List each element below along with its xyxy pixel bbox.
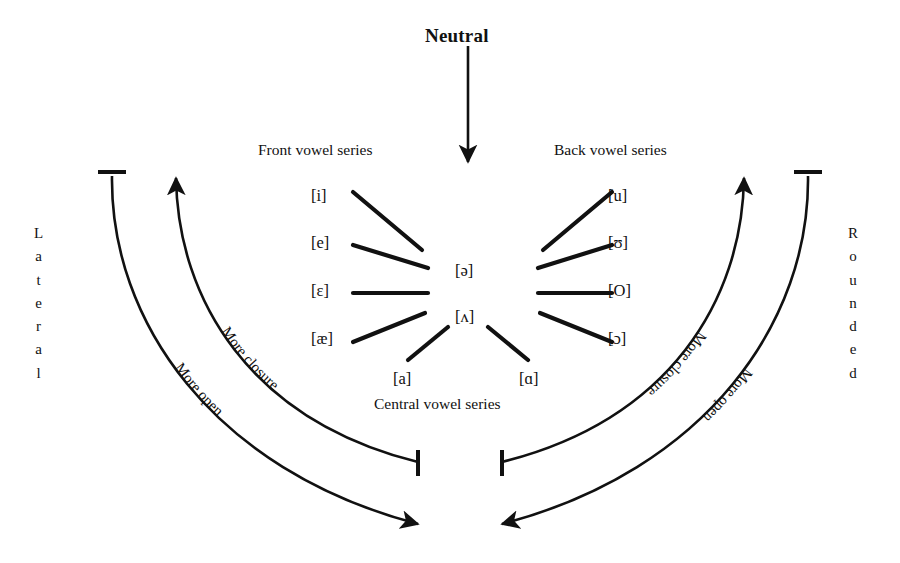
- side-label-letter: l: [37, 362, 41, 385]
- side-label-letter: u: [849, 269, 857, 292]
- side-label-letter: L: [34, 222, 43, 245]
- spoke-u: [543, 192, 612, 250]
- vowel-symbol-upsilon: [ʊ]: [608, 235, 628, 252]
- side-label-lateral: Lateral: [34, 222, 43, 385]
- vowel-symbol-epsilon: [ɛ]: [311, 283, 329, 300]
- side-label-letter: o: [849, 245, 857, 268]
- diagram-canvas: More closure More open More closure More…: [0, 0, 900, 563]
- arc-right-outer: More open: [502, 172, 822, 524]
- arc-label-right-outer: More open: [700, 366, 756, 427]
- spoke-upsilon: [538, 245, 612, 268]
- side-label-letter: n: [849, 292, 857, 315]
- spoke-script-a: [488, 327, 528, 360]
- spoke-a: [408, 327, 448, 360]
- vowel-symbol-script-a: [ɑ]: [519, 371, 539, 388]
- spoke-ae: [353, 313, 425, 342]
- arc-left-outer: More open: [98, 172, 418, 524]
- arc-right-inner: More closure: [502, 178, 744, 476]
- side-label-letter: a: [35, 338, 42, 361]
- vowel-symbol-open-o: [ɔ]: [608, 331, 626, 348]
- side-label-letter: e: [35, 292, 42, 315]
- side-label-letter: R: [848, 222, 858, 245]
- side-label-letter: a: [35, 245, 42, 268]
- vowel-symbol-e: [e]: [311, 235, 329, 252]
- vowel-symbol-u: [u]: [608, 188, 627, 205]
- arc-label-left-outer: More open: [172, 360, 227, 419]
- front-series-label: Front vowel series: [258, 142, 373, 158]
- arc-label-right-inner: More closure: [644, 329, 709, 400]
- spoke-open-o: [540, 313, 612, 342]
- side-label-letter: r: [36, 315, 41, 338]
- back-series-label: Back vowel series: [554, 142, 667, 158]
- vowel-diagram: More closure More open More closure More…: [0, 0, 900, 563]
- side-label-letter: d: [849, 315, 857, 338]
- vowel-symbol-caret: [ʌ]: [455, 309, 474, 326]
- side-label-letter: t: [37, 269, 41, 292]
- side-label-letter: e: [850, 338, 857, 361]
- vowel-symbol-a: [a]: [393, 371, 411, 388]
- central-series-label: Central vowel series: [374, 396, 501, 412]
- vowel-symbol-schwa: [ə]: [455, 263, 473, 280]
- side-label-rounded: Rounded: [848, 222, 858, 385]
- front-vowel-spokes: [353, 192, 448, 360]
- spoke-i: [353, 192, 422, 250]
- vowel-symbol-ae: [æ]: [311, 331, 333, 348]
- spoke-e: [353, 245, 428, 268]
- vowel-symbol-i: [i]: [311, 188, 327, 205]
- vowel-symbol-O: [O]: [608, 283, 631, 300]
- arc-left-inner: More closure: [176, 178, 418, 476]
- back-vowel-spokes: [488, 192, 612, 360]
- arc-label-left-inner: More closure: [219, 324, 283, 393]
- page-title: Neutral: [425, 26, 489, 45]
- side-label-letter: d: [849, 362, 857, 385]
